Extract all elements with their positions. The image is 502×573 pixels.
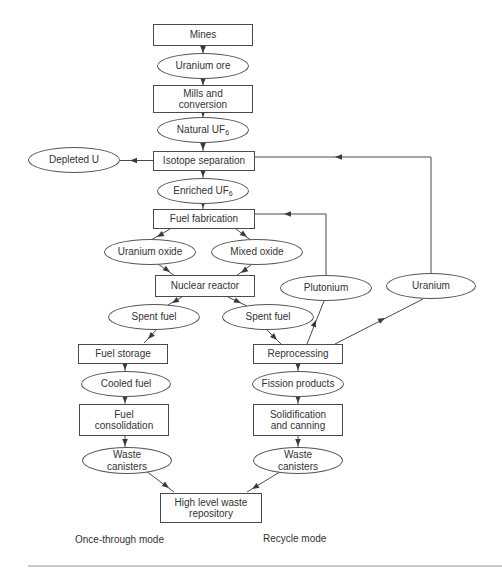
node-label: Uranium ore [175,60,230,72]
caption-once-through-mode: Once-through mode [75,534,164,545]
node-label-text: Enriched UF [173,185,229,196]
node-label: Isotope separation [163,155,245,167]
arrowhead [295,396,301,403]
node-waste-canisters-left: Waste canisters [82,447,172,474]
node-label: repository [189,508,233,520]
node-label-text: Natural UF [177,124,225,135]
node-enriched-uf6: Enriched UF6 [157,178,249,204]
node-label: Fission products [262,378,335,390]
arrowhead [377,316,386,324]
node-isotope-separation: Isotope separation [153,151,255,171]
node-solidification-and-canning: Solidification and canning [253,404,343,436]
node-waste-canisters-right: Waste canisters [253,447,343,474]
node-label: Spent fuel [245,311,290,323]
node-plutonium: Plutonium [280,275,372,301]
node-label: Uranium [412,280,450,292]
connector-waste-canisters-left-repository [146,471,174,492]
node-fission-products: Fission products [252,371,344,397]
arrowhead [335,154,342,160]
node-label: Fuel storage [95,348,151,360]
node-label-subscript: 6 [225,129,229,136]
node-label: Waste [113,449,141,461]
node-label: Fuel [114,409,133,421]
node-label: canisters [278,461,318,473]
node-label: canisters [107,461,147,473]
node-mixed-oxide: Mixed oxide [211,239,303,265]
arrowhead [122,396,128,403]
node-mills-and-conversion: Mills and conversion [153,85,253,113]
node-label: Waste [284,449,312,461]
caption-recycle-mode: Recycle mode [263,533,326,544]
node-label-subscript: 6 [229,190,233,197]
node-label: Natural UF6 [177,124,229,136]
arrowhead [200,78,206,85]
node-uranium-ore: Uranium ore [157,53,249,79]
node-spent-fuel-right: Spent fuel [222,304,314,330]
node-fuel-consolidation: Fuel consolidation [79,404,169,436]
node-label: High level waste [175,497,248,509]
node-depleted-u: Depleted U [28,147,120,173]
nuclear-fuel-cycle-diagram: Mines Uranium ore Mills and conversion N… [0,0,502,573]
node-label: Nuclear reactor [171,280,239,292]
node-mines: Mines [153,24,253,46]
arrowhead [295,363,301,370]
node-spent-fuel-left: Spent fuel [108,304,200,330]
node-label: Depleted U [49,154,99,166]
node-fuel-storage: Fuel storage [78,344,168,364]
node-fuel-fabrication: Fuel fabrication [153,209,255,229]
node-label: Mines [190,29,217,41]
node-reprocessing: Reprocessing [253,344,343,364]
arrowhead [251,483,260,491]
node-label: Mills and [183,88,222,100]
arrowhead [130,158,137,164]
node-nuclear-reactor: Nuclear reactor [155,275,255,297]
arrowhead [200,143,206,150]
node-label: and canning [271,420,326,432]
node-label: Uranium oxide [118,246,182,258]
node-label: Solidification [270,409,326,421]
node-label: Reprocessing [267,348,328,360]
node-label: consolidation [95,420,153,432]
node-label: Fuel fabrication [170,213,238,225]
node-label: Enriched UF6 [173,185,232,197]
node-uranium-oxide: Uranium oxide [104,239,196,265]
arrowhead [295,439,301,446]
node-label: Plutonium [304,282,348,294]
node-high-level-waste-repository: High level waste repository [160,493,262,523]
node-label: Cooled fuel [101,378,152,390]
node-label: Spent fuel [131,311,176,323]
arrowhead [200,170,206,177]
arrowhead [122,363,128,370]
arrowhead [233,298,242,306]
arrowhead [122,439,128,446]
arrowhead [200,46,206,53]
node-natural-uf6: Natural UF6 [157,117,249,143]
node-cooled-fuel: Cooled fuel [81,371,171,397]
node-label: conversion [179,99,227,111]
node-label: Mixed oxide [230,246,283,258]
arrowhead [284,211,291,217]
node-uranium: Uranium [386,273,476,299]
